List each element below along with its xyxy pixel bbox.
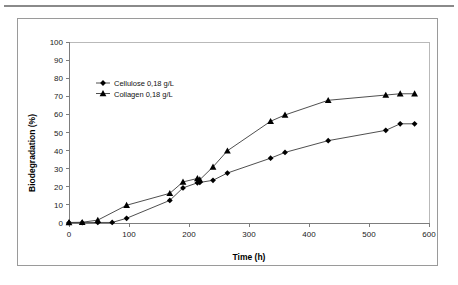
x-tick-label: 400 <box>302 230 316 239</box>
legend-label: Cellulose 0,18 g/L <box>114 79 174 88</box>
biodegradation-line-chart: 0102030405060708090100 01002003004005006… <box>18 19 439 267</box>
y-tick-label: 80 <box>54 74 63 83</box>
y-tick-label: 60 <box>54 110 63 119</box>
series-collagen <box>66 90 418 225</box>
legend-entry: Cellulose 0,18 g/L <box>96 79 174 88</box>
page-top-rule <box>4 5 454 7</box>
y-tick-label: 70 <box>54 92 63 101</box>
y-tick-label: 40 <box>54 147 63 156</box>
x-tick-label: 100 <box>122 230 136 239</box>
y-tick-label: 90 <box>54 56 63 65</box>
data-point-marker <box>210 177 216 183</box>
y-tick-label: 0 <box>59 219 64 228</box>
legend-marker-diamond <box>100 80 106 86</box>
data-point-marker <box>124 215 130 221</box>
data-series-group <box>66 90 418 225</box>
x-axis-ticks: 0100200300400500600 <box>67 223 436 239</box>
data-point-marker <box>224 147 231 153</box>
data-point-marker <box>225 170 231 176</box>
data-point-marker <box>268 155 274 161</box>
y-tick-label: 30 <box>54 165 63 174</box>
legend-label: Collagen 0,18 g/L <box>114 90 173 99</box>
y-tick-label: 10 <box>54 201 63 210</box>
figure-frame: 0102030405060708090100 01002003004005006… <box>17 18 438 266</box>
legend-entry: Collagen 0,18 g/L <box>96 90 173 99</box>
chart-legend: Cellulose 0,18 g/LCollagen 0,18 g/L <box>96 79 174 99</box>
data-point-marker <box>397 121 403 127</box>
series-line <box>69 94 415 223</box>
y-axis-ticks: 0102030405060708090100 <box>50 38 69 228</box>
x-tick-label: 500 <box>362 230 376 239</box>
data-point-marker <box>94 217 101 223</box>
x-tick-label: 600 <box>422 230 436 239</box>
chart-svg: 0102030405060708090100 01002003004005006… <box>18 19 439 267</box>
y-tick-label: 20 <box>54 183 63 192</box>
x-tick-label: 0 <box>67 230 72 239</box>
x-tick-label: 300 <box>242 230 256 239</box>
y-tick-label: 50 <box>54 129 63 138</box>
data-point-marker <box>282 112 289 118</box>
data-point-marker <box>282 150 288 156</box>
data-point-marker <box>412 121 418 127</box>
data-point-marker <box>109 220 115 226</box>
data-point-marker <box>383 127 389 133</box>
y-axis-title: Biodegradation (%) <box>27 114 37 192</box>
data-point-marker <box>325 138 331 144</box>
x-axis-title: Time (h) <box>233 252 266 262</box>
series-cellulose <box>66 121 417 226</box>
data-point-marker <box>267 118 274 124</box>
x-tick-label: 200 <box>182 230 196 239</box>
y-tick-label: 100 <box>50 38 64 47</box>
